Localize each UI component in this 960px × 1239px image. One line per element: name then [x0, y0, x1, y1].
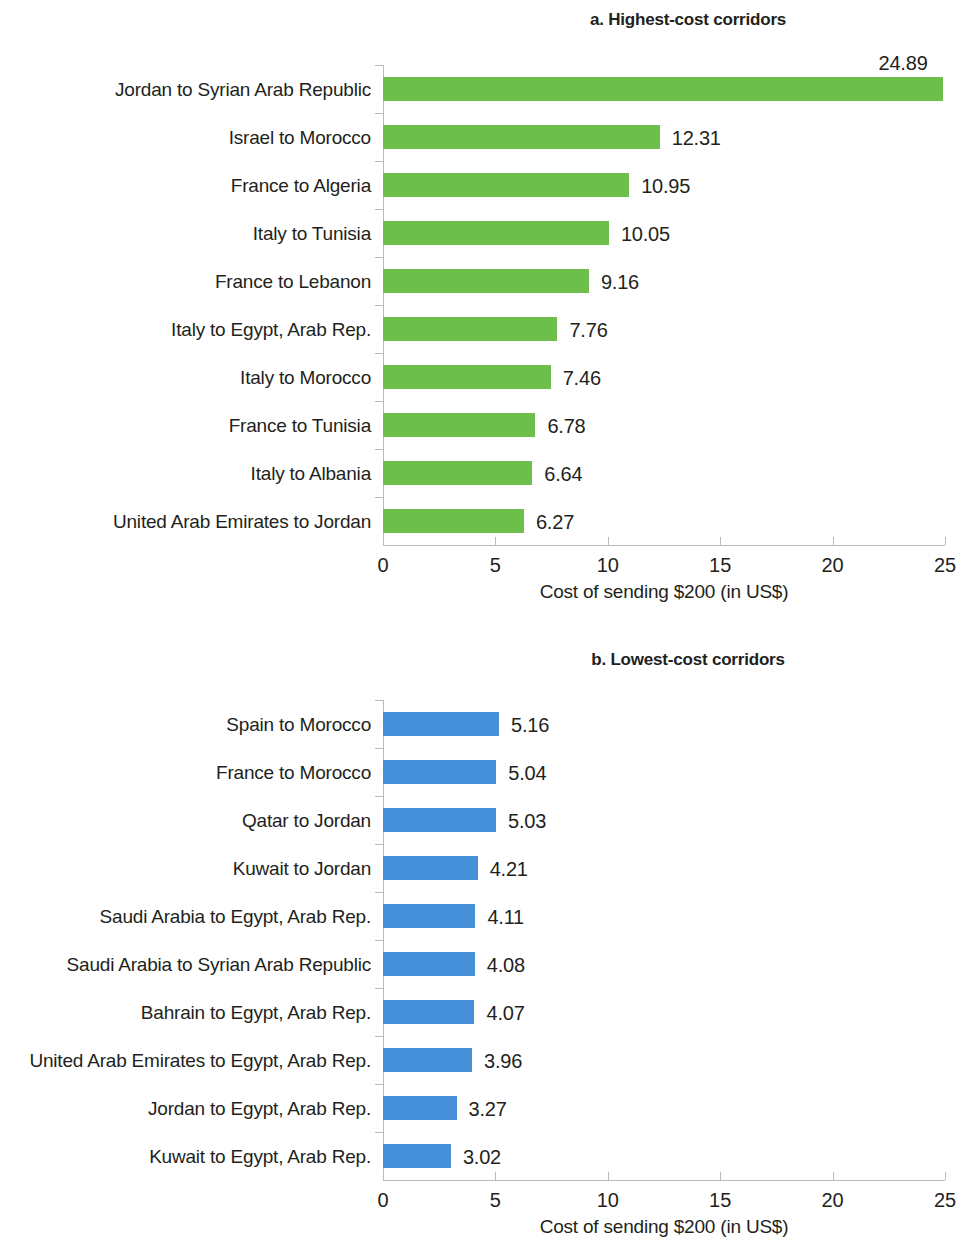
bar-value-label: 3.96: [484, 1049, 522, 1073]
category-label: France to Algeria: [231, 174, 371, 198]
x-axis-tick-label: 10: [597, 1188, 619, 1212]
bar-value-label: 7.46: [563, 366, 601, 390]
y-axis-tick: [375, 497, 383, 498]
category-label: Italy to Albania: [251, 462, 371, 486]
panel-b-title-text: b. Lowest-cost corridors: [591, 650, 785, 670]
category-label: Spain to Morocco: [226, 713, 371, 737]
x-axis-tick: [833, 537, 834, 545]
x-axis-tick: [720, 537, 721, 545]
category-label: Kuwait to Jordan: [233, 857, 371, 881]
chart-b-plot-area: Spain to Morocco5.16France to Morocco5.0…: [0, 700, 960, 1182]
y-axis-tick: [375, 796, 383, 797]
x-axis-tick: [833, 1172, 834, 1180]
bar: [383, 365, 551, 389]
x-axis-tick-label: 15: [709, 1188, 731, 1212]
category-label: Jordan to Egypt, Arab Rep.: [148, 1097, 371, 1121]
x-axis-tick: [720, 1172, 721, 1180]
panel-a-title: a. Highest-cost corridors: [0, 10, 960, 30]
bar: [383, 808, 496, 832]
chart-a-plot-area: Jordan to Syrian Arab Republic24.89Israe…: [0, 65, 960, 547]
y-axis-tick: [375, 700, 383, 701]
panel-highest-cost-corridors: a. Highest-cost corridors Jordan to Syri…: [0, 0, 960, 615]
y-axis-tick: [375, 113, 383, 114]
bar-value-label: 4.07: [486, 1001, 524, 1025]
bar-value-label: 4.08: [487, 953, 525, 977]
bar-value-label: 24.89: [879, 51, 928, 75]
x-axis-tick: [945, 1172, 946, 1180]
x-axis-tick-label: 10: [597, 553, 619, 577]
bar-value-label: 6.27: [536, 510, 574, 534]
bar: [383, 269, 589, 293]
bar: [383, 221, 609, 245]
bar-value-label: 12.31: [672, 126, 721, 150]
bar: [383, 1096, 457, 1120]
x-axis-tick-label: 15: [709, 553, 731, 577]
x-axis-tick: [383, 537, 384, 545]
bar-value-label: 5.03: [508, 809, 546, 833]
x-axis-tick: [945, 537, 946, 545]
bar: [383, 856, 478, 880]
x-axis-line: [383, 1180, 945, 1181]
category-label: Jordan to Syrian Arab Republic: [115, 78, 371, 102]
y-axis-tick: [375, 257, 383, 258]
bar: [383, 1000, 474, 1024]
bar-value-label: 6.78: [547, 414, 585, 438]
x-axis-tick-label: 5: [490, 1188, 501, 1212]
bar: [383, 509, 524, 533]
y-axis-tick: [375, 1132, 383, 1133]
bar-value-label: 9.16: [601, 270, 639, 294]
y-axis-tick: [375, 748, 383, 749]
y-axis-tick: [375, 892, 383, 893]
category-label: Saudi Arabia to Egypt, Arab Rep.: [100, 905, 371, 929]
x-axis-tick-label: 0: [377, 553, 388, 577]
category-label: Kuwait to Egypt, Arab Rep.: [149, 1145, 371, 1169]
bar: [383, 760, 496, 784]
category-label: United Arab Emirates to Jordan: [113, 510, 371, 534]
bar: [383, 1144, 451, 1168]
x-axis-tick-label: 20: [821, 1188, 843, 1212]
bar: [383, 77, 943, 101]
bar-value-label: 4.21: [490, 857, 528, 881]
chart-b-axis-title: Cost of sending $200 (in US$): [540, 1215, 789, 1239]
bar: [383, 952, 475, 976]
x-axis-line: [383, 545, 945, 546]
panel-b-title: b. Lowest-cost corridors: [0, 650, 960, 670]
x-axis-tick-label: 0: [377, 1188, 388, 1212]
bar-value-label: 5.16: [511, 713, 549, 737]
y-axis-tick: [375, 305, 383, 306]
bar-value-label: 4.11: [487, 905, 524, 929]
x-axis-tick: [608, 1172, 609, 1180]
y-axis-tick: [375, 844, 383, 845]
y-axis-tick: [375, 65, 383, 66]
y-axis-tick: [375, 1084, 383, 1085]
category-label: France to Morocco: [216, 761, 371, 785]
y-axis-tick: [375, 401, 383, 402]
bar-value-label: 5.04: [508, 761, 546, 785]
x-axis-tick: [608, 537, 609, 545]
x-axis-tick-label: 20: [821, 553, 843, 577]
bar: [383, 413, 535, 437]
bar-value-label: 10.05: [621, 222, 670, 246]
y-axis-tick: [375, 988, 383, 989]
bar-value-label: 10.95: [641, 174, 690, 198]
bar: [383, 712, 499, 736]
category-label: United Arab Emirates to Egypt, Arab Rep.: [29, 1049, 371, 1073]
category-label: Italy to Tunisia: [253, 222, 371, 246]
bar: [383, 317, 557, 341]
category-label: Israel to Morocco: [229, 126, 371, 150]
category-label: France to Lebanon: [215, 270, 371, 294]
category-label: Qatar to Jordan: [242, 809, 371, 833]
bar: [383, 1048, 472, 1072]
bar: [383, 173, 629, 197]
category-label: Saudi Arabia to Syrian Arab Republic: [67, 953, 371, 977]
y-axis-tick: [375, 940, 383, 941]
x-axis-tick-label: 25: [934, 553, 956, 577]
y-axis-tick: [375, 161, 383, 162]
x-axis-tick: [495, 537, 496, 545]
category-label: Bahrain to Egypt, Arab Rep.: [141, 1001, 371, 1025]
bar-value-label: 3.27: [469, 1097, 507, 1121]
y-axis-tick: [375, 449, 383, 450]
bar: [383, 461, 532, 485]
chart-a-axis-title: Cost of sending $200 (in US$): [540, 580, 789, 604]
y-axis-tick: [375, 1036, 383, 1037]
